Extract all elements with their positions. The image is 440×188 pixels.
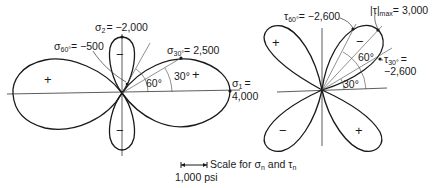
right-horizontal-axis [277,88,387,92]
scale-bar-label: 1,000 psi [175,171,218,183]
upper-right-sign: − [356,34,364,49]
lower-left-minus-lobe [264,90,322,151]
sigma1-value: 4,000 [232,90,258,102]
angle-30-label: 30° [174,70,190,82]
tau30-value: −2,600 [384,65,417,77]
lower-right-plus-lobe [322,90,382,151]
angle-60-label: 60° [146,77,162,89]
scale-legend: Scale forσnandτn 1,000 psi [175,158,297,183]
scale-arrow-left-icon [181,163,185,167]
sigma60-label: σ60°= −500 [54,40,104,53]
tau60-leader [340,18,353,28]
lower-right-sign: + [355,123,363,138]
scale-caption: Scale forσnandτn [210,158,297,171]
bottom-lobe-sign: − [116,123,124,138]
left-lobe-sign: + [44,72,52,87]
taumax-label: |τ|max= 3,000 [370,4,428,17]
lower-left-sign: − [279,123,287,138]
scale-arrow-right-icon [203,163,207,167]
sigma60-point [126,83,129,86]
normal-stress-plot: + + − − σ2= −2,000 σ60°= −500 σ30°= 2,50… [7,21,258,156]
upper-left-sign: + [272,35,280,50]
angle-60-label-right: 60° [358,51,374,63]
left-plus-lobe [13,59,122,129]
right-lobe-sign: + [192,67,200,82]
shear-stress-plot: + − − + τ60°= −2,600 |τ|max= 3,000 τ30°=… [264,4,428,151]
sigma2-label: σ2= −2,000 [95,21,148,34]
angle-30-label-right: 30° [343,78,359,90]
sigma2-point [120,35,123,38]
top-lobe-sign: − [116,47,124,62]
sigma30-label: σ30°= 2,500 [167,44,220,57]
tau60-label: τ60°= −2,600 [284,10,340,23]
sigma1-label: σ1= [232,77,251,90]
taumax-leader [375,14,378,29]
stress-polar-diagram-figure: + + − − σ2= −2,000 σ60°= −500 σ30°= 2,50… [0,0,440,188]
angle-arc-30 [165,68,172,92]
